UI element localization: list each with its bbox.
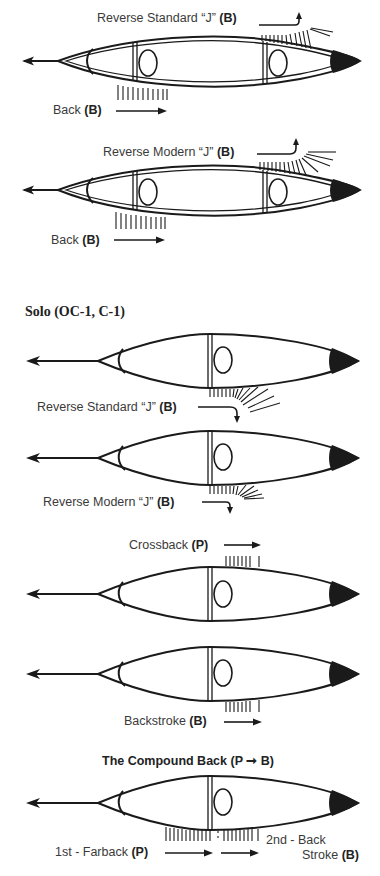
hull-outline <box>58 36 360 86</box>
diagram-title-compound-back: The Compound Back (P ➞ B) <box>102 753 274 768</box>
diagram-canvas <box>0 0 380 876</box>
paddler-tag: (B) <box>159 400 176 414</box>
paddler-tag: (B) <box>342 848 359 862</box>
stroke-label-reverse-standard-j: Reverse Standard “J” (B) <box>97 11 237 25</box>
stroke-name: Reverse Standard “J” <box>37 400 156 414</box>
section-title-solo: Solo (OC-1, C-1) <box>25 304 125 320</box>
paddler-tag: (B) <box>157 495 174 509</box>
stroke-name: Back <box>51 233 79 247</box>
tandem-canoe-1 <box>22 12 360 115</box>
stroke-label-back-stroke-line2: Stroke (B) <box>302 848 359 862</box>
stroke-label-farback: 1st - Farback (P) <box>55 845 148 859</box>
paddler-tag: (B) <box>217 145 234 159</box>
stroke-label-back-stroke: 2nd - Back <box>266 833 326 847</box>
stroke-name: Reverse Standard “J” <box>97 11 216 25</box>
stroke-name: Stroke <box>302 848 338 862</box>
stroke-name: Back <box>53 103 81 117</box>
paddler-tag: (B) <box>189 714 206 728</box>
solo-canoe-3 <box>26 542 358 622</box>
stroke-name: Backstroke <box>124 714 186 728</box>
stroke-label-backstroke: Backstroke (B) <box>124 714 207 728</box>
stroke-label-crossback: Crossback (P) <box>129 538 208 552</box>
stroke-name: Reverse Modern “J” <box>43 495 153 509</box>
diagram-title-text: The Compound Back <box>102 754 227 768</box>
diagram-title-paren: (P ➞ B) <box>231 754 274 768</box>
paddler-tag: (P) <box>131 845 148 859</box>
stroke-name: Reverse Modern “J” <box>103 145 213 159</box>
paddler-tag: (B) <box>82 233 99 247</box>
stroke-label-back: Back (B) <box>53 103 102 117</box>
stroke-name: 1st - Farback <box>55 845 128 859</box>
stroke-label-reverse-modern-j: Reverse Modern “J” (B) <box>43 495 174 509</box>
stroke-name: 2nd - Back <box>266 833 326 847</box>
stroke-name: Crossback <box>129 538 188 552</box>
paddler-tag: (B) <box>84 103 101 117</box>
paddler-tag: (P) <box>192 538 209 552</box>
paddler-tag: (B) <box>219 11 236 25</box>
stroke-label-reverse-standard-j: Reverse Standard “J” (B) <box>37 400 177 414</box>
stroke-label-back: Back (B) <box>51 233 100 247</box>
stroke-label-reverse-modern-j: Reverse Modern “J” (B) <box>103 145 234 159</box>
